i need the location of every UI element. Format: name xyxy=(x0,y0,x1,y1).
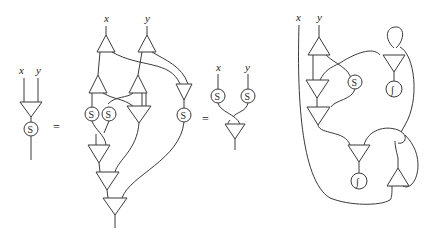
wire xyxy=(228,120,230,124)
wire-x-to-right xyxy=(112,52,180,84)
wire xyxy=(395,141,398,158)
input-label-y: y xyxy=(244,61,250,73)
s-node-label: S xyxy=(245,91,251,102)
wire-cross xyxy=(108,93,133,104)
panel-c: x y S S xyxy=(211,61,255,150)
input-label-x: x xyxy=(215,61,221,73)
wire xyxy=(96,121,109,145)
wire-knot xyxy=(364,128,405,145)
input-label-y: y xyxy=(316,11,322,23)
equals-sign: = xyxy=(202,112,209,126)
merge-triangle-down xyxy=(20,102,42,117)
s-node-label: S xyxy=(181,110,187,121)
wires xyxy=(142,93,146,106)
merge-triangle-down-low3 xyxy=(103,198,127,215)
input-wires xyxy=(24,78,38,102)
wire xyxy=(331,89,355,107)
merge-triangle-down-lower xyxy=(348,145,370,162)
s-node-label: S xyxy=(28,124,34,135)
input-label-y: y xyxy=(35,64,41,76)
wire-y-to-right xyxy=(152,52,188,84)
merge-triangle-down-low1 xyxy=(88,145,110,163)
merge-triangle-down-top-right xyxy=(383,55,405,72)
merge-triangle-down-low2 xyxy=(96,172,119,190)
input-label-x: x xyxy=(103,12,109,24)
merge-triangle-down xyxy=(306,80,329,98)
s-node-label: S xyxy=(352,77,358,88)
wire xyxy=(99,163,100,172)
input-label-y: y xyxy=(144,12,150,24)
loop-wire xyxy=(387,27,402,48)
input-label-x: x xyxy=(18,64,24,76)
wire xyxy=(390,186,392,200)
input-wires xyxy=(218,74,248,89)
integral-node-top xyxy=(386,81,402,97)
panel-b: x y S S S xyxy=(85,12,192,228)
s-node-label: S xyxy=(215,91,221,102)
integral-node-bottom xyxy=(351,173,367,189)
equals-sign: = xyxy=(53,120,60,134)
panel-a: x y S xyxy=(18,64,42,160)
copy-triangle-up-x xyxy=(97,35,115,52)
copy-triangle-up-y2 xyxy=(129,75,147,93)
string-diagram-figure: x y S = x y S S S xyxy=(0,0,438,239)
wire xyxy=(318,125,350,145)
merge-triangle-down-2 xyxy=(307,107,330,125)
s-node-label: S xyxy=(106,109,112,120)
wire xyxy=(92,121,106,145)
wire-cross xyxy=(233,103,248,117)
input-wires xyxy=(106,26,147,35)
merge-triangle-down-right xyxy=(176,84,192,100)
panel-d: x y S ∫ ∫ xyxy=(295,11,418,204)
copy-triangle-up-lower xyxy=(387,168,409,186)
copy-triangle-up-x2 xyxy=(89,75,107,93)
s-node-label: S xyxy=(89,109,95,120)
wire xyxy=(122,122,184,198)
wire xyxy=(115,123,139,172)
copy-triangle-up xyxy=(308,37,330,55)
wire xyxy=(107,190,108,198)
merge-triangle-down-mid xyxy=(127,106,151,123)
wire-y-down xyxy=(138,52,142,75)
input-label-x: x xyxy=(295,11,301,23)
wire-x-down xyxy=(98,52,100,75)
copy-triangle-up-y xyxy=(138,35,156,52)
merge-triangle-down xyxy=(225,124,245,139)
